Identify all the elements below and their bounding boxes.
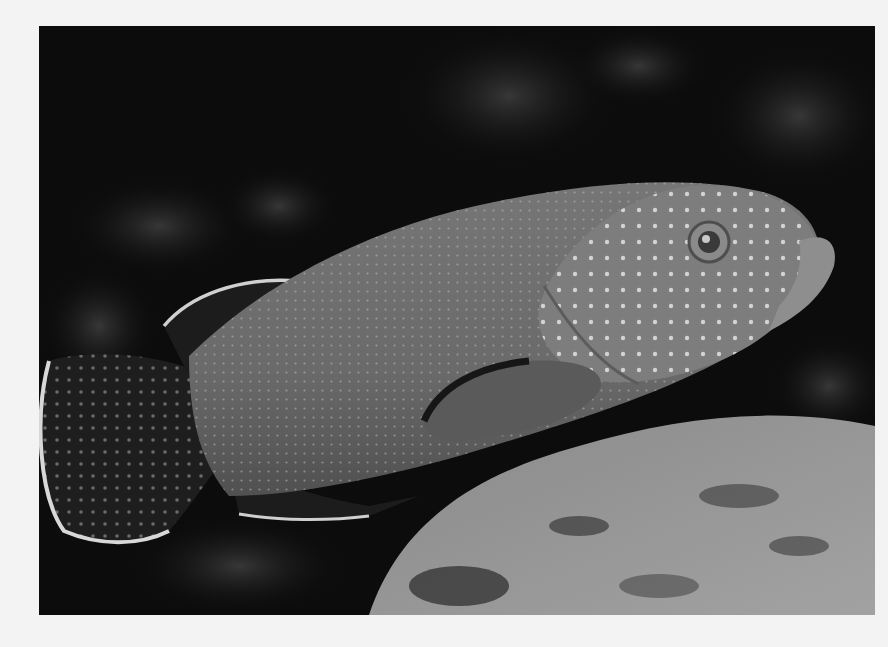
fish-eye [689,222,729,262]
fish-photograph [39,26,875,615]
grouper-image [39,26,875,615]
